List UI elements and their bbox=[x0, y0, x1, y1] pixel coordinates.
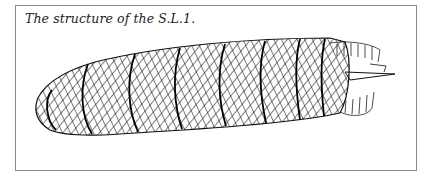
hull-lattice bbox=[30, 30, 360, 145]
airship-illustration bbox=[0, 0, 429, 183]
